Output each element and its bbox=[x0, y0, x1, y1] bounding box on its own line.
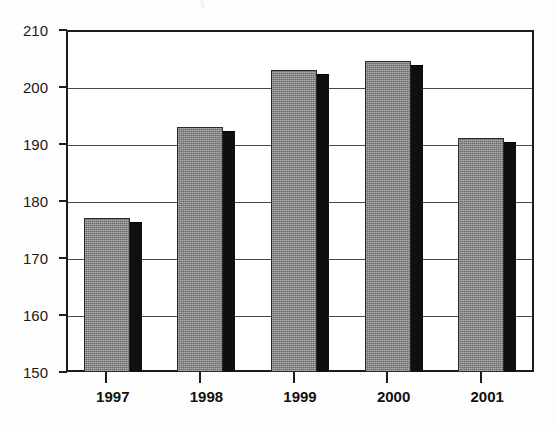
bar-side-face bbox=[223, 131, 235, 372]
bar bbox=[84, 218, 142, 372]
bars-layer bbox=[0, 0, 555, 430]
bar-side-face bbox=[411, 65, 423, 372]
bar-chart: ) 210200190180170160150 1997199819992000… bbox=[0, 0, 555, 430]
bar bbox=[177, 127, 235, 372]
bar-front-face bbox=[177, 127, 223, 372]
bar-front-face bbox=[365, 61, 411, 372]
bar bbox=[365, 61, 423, 372]
bar-front-face bbox=[458, 138, 504, 372]
bar-front-face bbox=[271, 70, 317, 372]
bar-front-face bbox=[84, 218, 130, 372]
bar bbox=[271, 70, 329, 372]
bar bbox=[458, 138, 516, 372]
bar-side-face bbox=[317, 74, 329, 372]
bar-side-face bbox=[504, 142, 516, 372]
bar-side-face bbox=[130, 222, 142, 372]
